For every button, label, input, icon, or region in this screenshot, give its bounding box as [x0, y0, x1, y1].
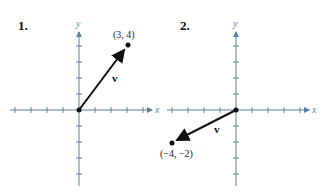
graph-2: 2. x y (−4, −2) v — [160, 18, 317, 186]
point-label: (3, 4) — [113, 29, 135, 41]
head-point — [170, 141, 175, 146]
origin-point — [77, 108, 82, 113]
vector-arrow — [177, 110, 236, 140]
graph-number: 2. — [180, 18, 190, 33]
y-axis-label: y — [232, 18, 238, 29]
y-axis-label: y — [75, 18, 81, 29]
head-point — [126, 43, 131, 48]
vector-label: v — [112, 72, 118, 84]
graph-1: 1. x y (3, 4) v — [10, 18, 160, 186]
graph-number: 1. — [18, 18, 28, 33]
origin-point — [234, 108, 239, 113]
x-axis-label: x — [154, 104, 160, 115]
vector-diagrams: 1. x y (3, 4) v 2. — [0, 0, 328, 195]
x-axis-label: x — [311, 104, 317, 115]
point-label: (−4, −2) — [160, 148, 193, 160]
vector-label: v — [214, 123, 220, 135]
